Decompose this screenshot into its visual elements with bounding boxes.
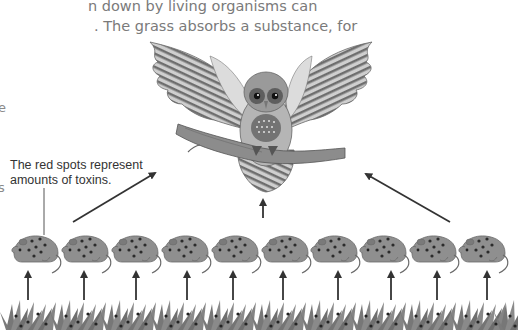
grass-to-mouse-arrows bbox=[28, 272, 487, 300]
owl-illustration bbox=[150, 42, 372, 192]
food-chain-diagram bbox=[0, 0, 518, 331]
arrow-icon bbox=[73, 173, 155, 222]
mouse-row bbox=[12, 236, 508, 273]
grass-strip bbox=[0, 300, 518, 330]
arrow-icon bbox=[366, 174, 450, 222]
